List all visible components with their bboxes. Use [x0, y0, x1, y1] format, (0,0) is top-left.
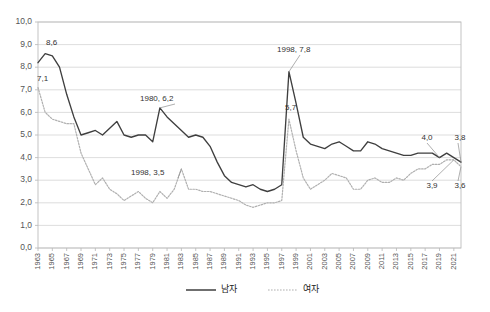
- y-axis-tick-label: 10,0: [15, 16, 32, 26]
- chart-legend: 남자여자: [186, 283, 320, 294]
- annotation-leader-line: [458, 167, 461, 181]
- x-axis-tick-label: 1995: [262, 253, 271, 270]
- y-axis-tick-label: 2,0: [20, 197, 32, 207]
- x-axis-tick-label: 1985: [191, 253, 200, 270]
- annotation-leader-line: [432, 160, 454, 181]
- annotation-leader-line: [427, 143, 439, 158]
- x-axis-tick-label: 2001: [305, 253, 314, 270]
- annotation-leader-line: [289, 55, 300, 72]
- data-label-male-1998: 1998, 7,8: [277, 45, 311, 54]
- data-label-female-1998-peak: 5,7: [285, 103, 297, 112]
- y-axis-tick-label: 1,0: [20, 220, 32, 230]
- annotation-leader-line: [458, 143, 461, 162]
- legend-label-male[interactable]: 남자: [221, 284, 238, 294]
- data-label-male-1980: 1980, 6,2: [140, 94, 174, 103]
- y-axis-tick-label: 0,0: [20, 242, 32, 252]
- y-axis-tick-label: 4,0: [20, 152, 32, 162]
- x-axis-tick-label: 1975: [119, 253, 128, 270]
- x-axis-tick-label: 1991: [234, 253, 243, 270]
- y-axis-tick-label: 9,0: [20, 39, 32, 49]
- x-axis-tick-label: 2007: [348, 253, 357, 270]
- x-axis-tick-label: 1997: [277, 253, 286, 270]
- x-axis-tick-label: 1989: [219, 253, 228, 270]
- x-axis-tick-label: 1981: [162, 253, 171, 270]
- data-label-female-2022: 3,6: [454, 181, 466, 190]
- x-axis-tick-label: 2019: [434, 253, 443, 270]
- data-label-male-2019: 4,0: [421, 133, 433, 142]
- line-chart: 0,01,02,03,04,05,06,07,08,09,010,0 19631…: [0, 0, 490, 312]
- x-axis-tick-label: 2003: [320, 253, 329, 270]
- series-line-female: [38, 88, 461, 208]
- data-label-female-2021: 3,9: [426, 181, 438, 190]
- y-axis-tick-label: 7,0: [20, 84, 32, 94]
- x-axis-tick-label: 2011: [377, 253, 386, 269]
- annotation-leader-line: [160, 104, 175, 108]
- x-axis-tick-label: 2005: [334, 253, 343, 270]
- x-axis-tick-label: 1963: [33, 253, 42, 270]
- chart-container: 0,01,02,03,04,05,06,07,08,09,010,0 19631…: [0, 0, 490, 312]
- x-axis-tick-label: 1973: [105, 253, 114, 270]
- y-axis-tick-label: 8,0: [20, 61, 32, 71]
- data-label-male-start-peak: 8,6: [46, 38, 58, 47]
- y-axis-tick-label: 6,0: [20, 107, 32, 117]
- y-axis-tick-label: 3,0: [20, 174, 32, 184]
- data-label-male-2022: 3,8: [454, 133, 466, 142]
- x-axis-tick-label: 1999: [291, 253, 300, 270]
- x-axis-tick-label: 1967: [62, 253, 71, 270]
- x-axis-tick-label: 1993: [248, 253, 257, 270]
- legend-label-female[interactable]: 여자: [303, 283, 320, 294]
- y-axis-tick-labels: 0,01,02,03,04,05,06,07,08,09,010,0: [15, 16, 38, 252]
- x-axis-tick-label: 2013: [391, 253, 400, 270]
- data-series-group: [38, 54, 461, 208]
- y-axis-tick-label: 5,0: [20, 129, 32, 139]
- x-axis-tick-label: 1971: [90, 253, 99, 270]
- annotation-leader-line: [178, 169, 181, 178]
- x-axis-tick-label: 2017: [420, 253, 429, 270]
- x-axis-tick-label: 2009: [363, 253, 372, 270]
- x-axis-tick-label: 2021: [449, 253, 458, 270]
- data-label-female-start: 7,1: [37, 74, 49, 83]
- x-axis-tick-label: 1983: [176, 253, 185, 270]
- x-axis-tick-label: 2015: [406, 253, 415, 270]
- x-axis-tick-label: 1977: [133, 253, 142, 270]
- data-label-annotations: 8,67,11980, 6,21998, 3,51998, 7,85,74,03…: [37, 38, 466, 190]
- x-axis-tick-label: 1965: [47, 253, 56, 270]
- x-axis-tick-label: 1969: [76, 253, 85, 270]
- x-axis-tick-labels: 1963196519671969197119731975197719791981…: [33, 253, 458, 270]
- data-label-female-1998: 1998, 3,5: [131, 168, 165, 177]
- x-axis-tick-label: 1979: [148, 253, 157, 270]
- x-axis-tick-label: 1987: [205, 253, 214, 270]
- series-line-male: [38, 54, 461, 192]
